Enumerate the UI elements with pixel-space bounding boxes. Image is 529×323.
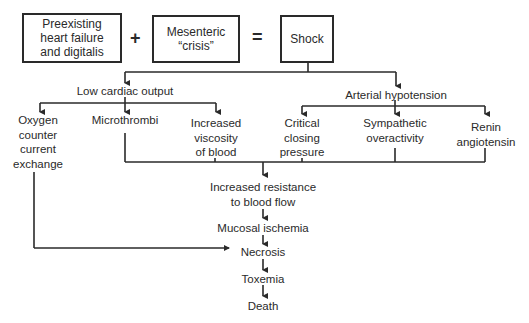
sympathetic-overactivity-label: Sympathetic overactivity [355, 116, 435, 145]
mesenteric-crisis-box: Mesenteric “crisis” [152, 15, 240, 63]
preexisting-heart-failure-box: Preexisting heart failure and digitalis [22, 13, 122, 63]
oxygen-line2: counter [8, 128, 68, 143]
oxygen-line4: exchange [8, 157, 68, 172]
critical-line3: pressure [272, 145, 332, 160]
box2-line2: “crisis” [167, 39, 226, 53]
renin-line1: Renin [452, 120, 520, 135]
oxygen-line1: Oxygen [8, 113, 68, 128]
sympathetic-line1: Sympathetic [355, 116, 435, 131]
shock-label: Shock [290, 32, 323, 46]
renin-angiotensin-label: Renin angiotensin [452, 120, 520, 149]
toxemia-label: Toxemia [233, 272, 293, 287]
box2-line1: Mesenteric [167, 25, 226, 39]
necrosis-label: Necrosis [233, 245, 293, 260]
plus-sign: + [130, 29, 141, 47]
increased-resistance-label: Increased resistance to blood flow [203, 180, 323, 209]
critical-line1: Critical [272, 116, 332, 131]
arterial-hypotension-label: Arterial hypotension [340, 88, 452, 103]
viscosity-label: Increased viscosity of blood [185, 116, 247, 160]
resistance-line1: Increased resistance [203, 180, 323, 195]
microthrombi-line1: Microthrombi [90, 113, 160, 128]
viscosity-line3: of blood [185, 145, 247, 160]
death-label: Death [233, 299, 293, 314]
equals-sign: = [252, 28, 263, 46]
critical-closing-pressure-label: Critical closing pressure [272, 116, 332, 160]
viscosity-line2: viscosity [185, 131, 247, 146]
box1-line2: heart failure [40, 31, 103, 45]
oxygen-exchange-label: Oxygen counter current exchange [8, 113, 68, 171]
box1-line1: Preexisting [40, 17, 103, 31]
shock-box: Shock [280, 15, 334, 63]
resistance-line2: to blood flow [203, 195, 323, 210]
box1-line3: and digitalis [40, 45, 103, 59]
microthrombi-label: Microthrombi [90, 113, 160, 128]
mucosal-ischemia-label: Mucosal ischemia [208, 221, 318, 236]
viscosity-line1: Increased [185, 116, 247, 131]
sympathetic-line2: overactivity [355, 131, 435, 146]
low-cardiac-output-label: Low cardiac output [75, 84, 175, 99]
oxygen-line3: current [8, 142, 68, 157]
renin-line2: angiotensin [452, 135, 520, 150]
critical-line2: closing [272, 131, 332, 146]
